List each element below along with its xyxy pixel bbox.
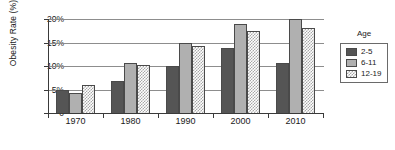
bar-2010-12-19: [302, 28, 315, 113]
legend-label-12-19: 12-19: [361, 70, 381, 78]
x-tick-mark-5: [323, 114, 324, 118]
bar-group-1980: [103, 19, 158, 113]
x-tick-label-2010: 2010: [268, 116, 323, 126]
bar-groups: [48, 19, 323, 113]
bar-group-1970: [48, 19, 103, 113]
legend-item-12-19: 12-19: [346, 70, 383, 78]
bar-1990-12-19: [192, 46, 205, 113]
legend-box: 2-56-1112-19: [340, 43, 388, 83]
legend-label-6-11: 6-11: [361, 59, 376, 67]
x-axis-tick-labels: 19701980199020002010: [48, 116, 323, 126]
bar-2010-6-11: [289, 19, 302, 113]
bar-group-2000: [213, 19, 268, 113]
legend-title: Age: [339, 29, 389, 38]
legend-item-2-5: 2-5: [346, 48, 383, 56]
x-tick-label-2000: 2000: [213, 116, 268, 126]
x-tick-label-1980: 1980: [103, 116, 158, 126]
bar-1980-6-11: [124, 63, 137, 113]
bar-1990-6-11: [179, 43, 192, 114]
bar-2000-2-5: [221, 48, 234, 113]
bar-1990-2-5: [166, 66, 179, 113]
bar-group-1990: [158, 19, 213, 113]
bar-1970-6-11: [69, 93, 82, 113]
bar-2010-2-5: [276, 63, 289, 113]
bar-1970-12-19: [82, 85, 95, 113]
legend-item-6-11: 6-11: [346, 59, 383, 67]
x-tick-label-1970: 1970: [48, 116, 103, 126]
x-tick-label-1990: 1990: [158, 116, 213, 126]
bar-1980-12-19: [137, 65, 150, 113]
y-axis-title: Obesity Rate (%): [8, 0, 18, 79]
legend-swatch-6-11: [346, 59, 357, 67]
bar-group-2010: [268, 19, 323, 113]
bar-1970-2-5: [56, 90, 69, 113]
obesity-rate-bar-chart: Obesity Rate (%) 05%10%15%20% 1970198019…: [0, 0, 395, 150]
legend-swatch-12-19: [346, 70, 357, 78]
bar-1980-2-5: [111, 81, 124, 113]
legend-label-2-5: 2-5: [361, 48, 373, 56]
legend-swatch-2-5: [346, 48, 357, 56]
bar-2000-12-19: [247, 31, 260, 113]
bar-2000-6-11: [234, 24, 247, 113]
